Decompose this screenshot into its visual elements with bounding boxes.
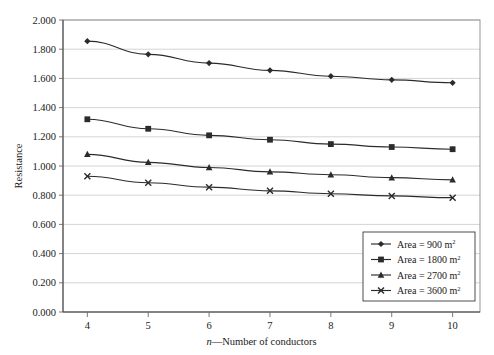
x-tick-label: 5 (146, 320, 151, 331)
legend-label-0: Area = 900 m2 (397, 238, 456, 250)
chart-canvas: 0.0000.2000.4000.6000.8001.0001.2001.400… (0, 0, 494, 355)
y-tick-label: 1.600 (32, 73, 56, 84)
legend-marker-square (378, 257, 384, 263)
y-tick-label: 0.400 (32, 248, 56, 259)
y-tick-label: 0.600 (32, 219, 56, 230)
legend-label-text: Area = 900 m (397, 239, 453, 250)
legend-label-text: Area = 3600 m (397, 285, 458, 296)
data-point-square (84, 116, 90, 122)
x-tick-label: 4 (85, 320, 91, 331)
legend-label-text: Area = 1800 m (397, 254, 458, 265)
x-axis-title: n—Number of conductors (206, 336, 316, 347)
y-axis-title: Resistance (13, 143, 24, 188)
legend-label-1: Area = 1800 m2 (397, 254, 461, 266)
y-tick-label: 0.000 (32, 307, 56, 318)
data-point-diamond (450, 80, 456, 86)
y-tick-label: 1.800 (32, 44, 56, 55)
legend-label-superscript: 2 (452, 238, 455, 245)
data-point-diamond (206, 60, 212, 66)
series-line-0 (87, 41, 452, 83)
data-point-diamond (267, 67, 273, 73)
data-point-square (328, 141, 334, 147)
x-tick-label: 7 (267, 320, 272, 331)
legend-label-superscript: 2 (457, 269, 460, 276)
x-tick-label: 9 (389, 320, 394, 331)
y-tick-label: 1.000 (32, 161, 56, 172)
series-line-1 (87, 119, 452, 149)
y-tick-label: 1.400 (32, 102, 56, 113)
data-point-square (389, 144, 395, 150)
series-line-3 (87, 176, 452, 197)
series-line-2 (87, 154, 452, 180)
y-tick-label: 2.000 (32, 15, 56, 26)
legend-label-3: Area = 3600 m2 (397, 285, 461, 297)
y-tick-label: 0.200 (32, 277, 56, 288)
resistance-vs-conductors-chart: 0.0000.2000.4000.6000.8001.0001.2001.400… (0, 0, 494, 355)
legend-label-superscript: 2 (457, 254, 460, 261)
data-point-square (206, 132, 212, 138)
x-tick-label: 8 (328, 320, 333, 331)
y-tick-label: 0.800 (32, 190, 56, 201)
data-point-square (145, 126, 151, 132)
legend-label-text: Area = 2700 m (397, 270, 458, 281)
data-point-square (267, 137, 273, 143)
legend-label-superscript: 2 (457, 285, 460, 292)
legend-label-2: Area = 2700 m2 (397, 269, 461, 281)
data-point-diamond (145, 51, 151, 57)
data-point-square (450, 146, 456, 152)
x-axis-title-rest: —Number of conductors (211, 336, 317, 347)
x-tick-label: 6 (206, 320, 211, 331)
y-tick-label: 1.200 (32, 131, 56, 142)
data-point-diamond (389, 77, 395, 83)
data-point-diamond (84, 38, 90, 44)
x-tick-label: 10 (447, 320, 458, 331)
